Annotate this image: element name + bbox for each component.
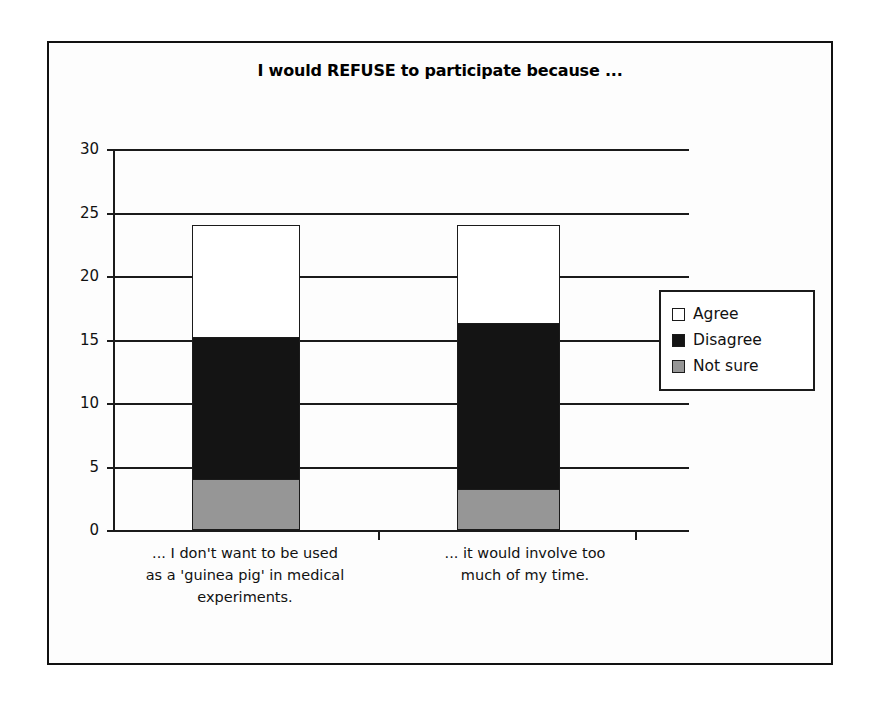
y-tick-0: [107, 530, 115, 532]
legend-item-agree[interactable]: Agree: [672, 301, 802, 327]
bar-segment-disagree[interactable]: [457, 323, 560, 489]
gridline-0: [113, 530, 689, 532]
legend-label-disagree: Disagree: [693, 331, 762, 349]
chart-frame: I would REFUSE to participate because ..…: [47, 41, 833, 665]
x-axis-end-tick: [635, 530, 637, 540]
x-axis-category-label-1: ... I don't want to be usedas a 'guinea …: [105, 543, 385, 608]
black-square-icon: [672, 334, 685, 347]
category-label-line: ... it would involve too: [405, 543, 645, 565]
plot-area: [113, 149, 689, 530]
x-axis-divider-tick: [378, 530, 380, 540]
y-axis-label-30: 30: [49, 140, 99, 158]
y-axis-label-10: 10: [49, 394, 99, 412]
legend-label-agree: Agree: [693, 305, 739, 323]
x-axis-category-label-2: ... it would involve toomuch of my time.: [405, 543, 645, 587]
category-label-line: ... I don't want to be used: [105, 543, 385, 565]
y-axis-label-20: 20: [49, 267, 99, 285]
legend-item-disagree[interactable]: Disagree: [672, 327, 802, 353]
gray-square-icon: [672, 360, 685, 373]
y-axis-label-15: 15: [49, 331, 99, 349]
legend-item-not-sure[interactable]: Not sure: [672, 353, 802, 379]
bar-segment-not-sure[interactable]: [192, 479, 300, 530]
bar-segment-not-sure[interactable]: [457, 489, 560, 530]
white-square-icon: [672, 308, 685, 321]
stacked-bar-category-1[interactable]: [192, 225, 300, 530]
y-axis-label-5: 5: [49, 458, 99, 476]
y-axis-label-25: 25: [49, 204, 99, 222]
bar-segment-agree[interactable]: [457, 225, 560, 323]
category-label-line: much of my time.: [405, 565, 645, 587]
chart-legend: Agree Disagree Not sure: [659, 290, 815, 391]
category-label-line: experiments.: [105, 587, 385, 609]
chart-title: I would REFUSE to participate because ..…: [49, 61, 831, 80]
category-label-line: as a 'guinea pig' in medical: [105, 565, 385, 587]
bar-segment-disagree[interactable]: [192, 337, 300, 479]
y-axis-label-0: 0: [49, 521, 99, 539]
legend-label-not-sure: Not sure: [693, 357, 759, 375]
stacked-bar-category-2[interactable]: [457, 225, 560, 530]
bar-segment-agree[interactable]: [192, 225, 300, 337]
